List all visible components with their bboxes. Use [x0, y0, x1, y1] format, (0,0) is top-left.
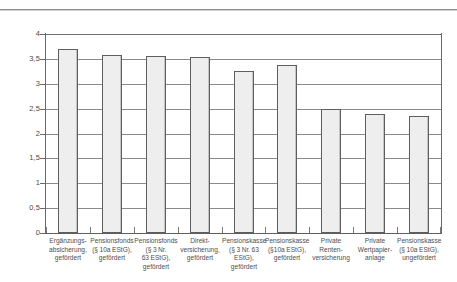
y-axis-tick-labels: 00,511,522,533,54 — [0, 11, 40, 251]
category-label-line: gefördert — [222, 263, 266, 272]
category-label-line: Renten- — [309, 246, 353, 255]
x-axis-separator-2 — [134, 227, 135, 233]
bar-6 — [277, 65, 297, 233]
x-axis-separator-1 — [90, 227, 91, 233]
bar-1 — [58, 49, 78, 233]
category-label-line: Pensionsfonds — [90, 237, 134, 246]
y-tick-label-3: 3 — [4, 80, 40, 88]
category-label-line: (§10a EStG), — [265, 246, 309, 255]
y-tick-mark-0,5 — [40, 208, 46, 209]
category-label-line: Pensionsfonds — [134, 237, 178, 246]
y-tick-label-2,5: 2,5 — [4, 105, 40, 113]
category-label-line: gefördert — [134, 263, 178, 272]
category-label-line: ungefördert — [397, 254, 441, 263]
category-label-line: Wertpapier- — [353, 246, 397, 255]
bar-9 — [409, 116, 429, 233]
category-label-line: 63 EStG), — [134, 254, 178, 263]
category-label-line: anlage — [353, 254, 397, 263]
y-tick-mark-3,5 — [40, 59, 46, 60]
category-label-line: gefördert — [178, 254, 222, 263]
y-tick-label-0,5: 0,5 — [4, 204, 40, 212]
y-tick-mark-2,5 — [40, 109, 46, 110]
y-tick-mark-2 — [40, 134, 46, 135]
x-axis-separator-4 — [222, 227, 223, 233]
x-axis-separator-end — [440, 227, 441, 233]
category-label-line: versicherung, — [178, 246, 222, 255]
plot-right-border — [441, 33, 442, 234]
y-tick-label-1: 1 — [4, 179, 40, 187]
category-label-line: Ergänzungs- — [46, 237, 90, 246]
x-axis-separator-5 — [265, 227, 266, 233]
category-label-line: (§ 3 Nr. 63 — [222, 246, 266, 255]
x-axis-separator-8 — [397, 227, 398, 233]
category-label-line: absicherung, — [46, 246, 90, 255]
y-tick-mark-1,5 — [40, 158, 46, 159]
category-label-line: (§ 10a EStG), — [90, 246, 134, 255]
category-label-line: gefördert — [265, 254, 309, 263]
y-tick-label-1,5: 1,5 — [4, 154, 40, 162]
category-label-line: gefördert — [46, 254, 90, 263]
bar-8 — [365, 114, 385, 233]
plot-area — [46, 34, 441, 233]
y-tick-mark-1 — [40, 183, 46, 184]
y-tick-mark-3 — [40, 84, 46, 85]
category-label-7: PrivateRenten-versicherung — [309, 237, 353, 263]
gridline-4 — [46, 34, 441, 35]
y-tick-label-0: 0 — [4, 229, 40, 237]
category-label-line: versicherung — [309, 254, 353, 263]
category-label-1: Ergänzungs-absicherung,gefördert — [46, 237, 90, 263]
category-label-line: EStG), — [222, 254, 266, 263]
category-label-9: Pensionskasse(§ 10a EStG),ungefördert — [397, 237, 441, 263]
x-axis-separator-6 — [309, 227, 310, 233]
category-label-line: (§ 3 Nr. — [134, 246, 178, 255]
category-label-2: Pensionsfonds(§ 10a EStG),gefördert — [90, 237, 134, 263]
category-label-line: Pensionskasse — [265, 237, 309, 246]
y-tick-label-2: 2 — [4, 130, 40, 138]
category-label-3: Pensionsfonds(§ 3 Nr.63 EStG),gefördert — [134, 237, 178, 271]
bar-5 — [234, 71, 254, 233]
category-label-line: Private — [353, 237, 397, 246]
category-label-5: Pensionskasse(§ 3 Nr. 63EStG),gefördert — [222, 237, 266, 271]
bar-3 — [146, 56, 166, 233]
x-axis-separator-3 — [178, 227, 179, 233]
y-tick-label-3,5: 3,5 — [4, 55, 40, 63]
y-tick-label-4: 4 — [4, 30, 40, 38]
category-label-line: Private — [309, 237, 353, 246]
x-axis-line — [45, 233, 442, 234]
y-tick-mark-0 — [40, 233, 46, 234]
x-axis-separator-0 — [46, 227, 47, 233]
category-label-4: Direkt-versicherung,gefördert — [178, 237, 222, 263]
category-label-6: Pensionskasse(§10a EStG),gefördert — [265, 237, 309, 263]
x-axis-category-labels: Ergänzungs-absicherung,gefördertPensions… — [46, 237, 441, 282]
category-label-line: Pensionskasse — [397, 237, 441, 246]
bar-7 — [321, 109, 341, 233]
bar-4 — [190, 57, 210, 233]
bar-chart-figure: 00,511,522,533,54 Ergänzungs-absicherung… — [0, 11, 457, 282]
category-label-line: (§ 10a EStG), — [397, 246, 441, 255]
category-label-line: gefördert — [90, 254, 134, 263]
bar-2 — [102, 55, 122, 233]
x-axis-separator-7 — [353, 227, 354, 233]
category-label-line: Pensionskasse — [222, 237, 266, 246]
category-label-8: PrivateWertpapier-anlage — [353, 237, 397, 263]
category-label-line: Direkt- — [178, 237, 222, 246]
y-tick-mark-4 — [40, 34, 46, 35]
